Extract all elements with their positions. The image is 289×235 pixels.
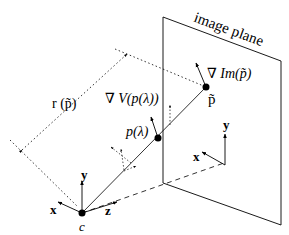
cam-x-axis (58, 202, 82, 213)
image-plane (163, 17, 281, 225)
diagram-canvas: image plane ∇ Im(p̃) p̃ ∇ V(p(λ)) p(λ) r… (0, 0, 289, 235)
cam-z-label: z (105, 204, 111, 217)
grad-im-label: ∇ Im(p̃) (207, 67, 251, 81)
r-p-label: r (p̃) (52, 97, 77, 111)
cam-center-label: c (79, 220, 85, 233)
img-x-axis (202, 152, 225, 165)
r-dim-bottom-ext (10, 140, 78, 207)
p-tilde-label: p̃ (208, 92, 216, 107)
camera-center-dot (79, 210, 86, 217)
grad-hint-2 (111, 147, 131, 163)
cam-y-label: y (81, 168, 88, 181)
p-lambda-label: p(λ) (126, 125, 148, 139)
img-x-label: x (193, 150, 200, 163)
grad-v-label: ∇ V(p(λ)) (105, 92, 159, 106)
grad-hint-3 (121, 149, 124, 170)
optical-axis-dashed (82, 163, 224, 213)
cam-x-label: x (50, 203, 57, 216)
grad-v-arrow (151, 117, 158, 138)
r-dim-top-ext (115, 49, 206, 87)
img-y-label: y (223, 118, 230, 131)
